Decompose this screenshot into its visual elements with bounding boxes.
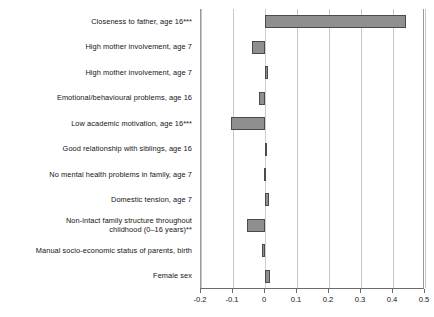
category-label: Manual socio-economic status of parents,… — [2, 246, 192, 256]
category-label: High mother involvement, age 7 — [2, 42, 192, 52]
x-tick-label: -0.2 — [193, 295, 206, 305]
category-label: No mental health problems in family, age… — [2, 170, 192, 180]
bar — [259, 92, 265, 105]
x-tick-mark — [200, 289, 201, 293]
category-label: Female sex — [2, 271, 192, 281]
category-label: High mother involvement, age 7 — [2, 68, 192, 78]
bar — [265, 270, 270, 283]
category-label: Domestic tension, age 7 — [2, 195, 192, 205]
x-tick-label: -0.1 — [225, 295, 238, 305]
category-label: Emotional/behavioural problems, age 16 — [2, 93, 192, 103]
category-label: Closeness to father, age 16*** — [2, 17, 192, 27]
x-axis-tick-labels: -0.2-0.100.10.20.30.40.5 — [200, 295, 424, 309]
x-tick-label: 0 — [262, 295, 266, 305]
x-tick-mark — [328, 289, 329, 293]
bar — [252, 41, 265, 54]
x-tick-label: 0.5 — [419, 295, 430, 305]
x-tick-label: 0.4 — [387, 295, 398, 305]
x-tick-mark — [360, 289, 361, 293]
bar — [265, 15, 406, 28]
x-tick-mark — [424, 289, 425, 293]
bar — [265, 143, 267, 156]
bar — [231, 117, 265, 130]
bar — [247, 219, 265, 232]
x-tick-label: 0.2 — [323, 295, 334, 305]
x-tick-mark — [264, 289, 265, 293]
plot-area — [200, 9, 424, 289]
bar — [264, 168, 266, 181]
gridline-0p5 — [425, 9, 426, 288]
x-tick-mark — [392, 289, 393, 293]
bar — [265, 66, 268, 79]
horizontal-bar-chart: Closeness to father, age 16***High mothe… — [0, 0, 434, 317]
category-labels-axis: Closeness to father, age 16***High mothe… — [0, 0, 196, 289]
bar — [262, 244, 265, 257]
bar — [265, 193, 269, 206]
category-label: Low academic motivation, age 16*** — [2, 119, 192, 129]
bars-layer — [201, 9, 423, 288]
x-tick-mark — [296, 289, 297, 293]
x-tick-mark — [232, 289, 233, 293]
x-tick-label: 0.1 — [291, 295, 302, 305]
x-tick-label: 0.3 — [355, 295, 366, 305]
category-label: Non-intact family structure throughout c… — [2, 216, 192, 235]
category-label: Good relationship with siblings, age 16 — [2, 144, 192, 154]
